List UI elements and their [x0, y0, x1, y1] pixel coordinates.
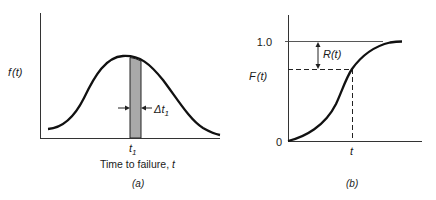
r-of-t-bracket-arrow [316, 42, 321, 69]
y-axis-label-f-of-t: f(t) [8, 66, 23, 78]
y-axis-label-F-of-t: F(t) [249, 70, 267, 82]
panel-a: Δt1 f(t) t1 Time to failure, t (a) [8, 13, 220, 189]
y-tick-0: 0 [276, 136, 282, 148]
x-axis-label-time-to-failure: Time to failure, t [100, 158, 176, 170]
t1-tick-label: t1 [129, 142, 137, 157]
r-of-t-label: R(t) [323, 48, 342, 60]
caption-b: (b) [346, 178, 358, 189]
shaded-interval-band [130, 58, 141, 139]
x-tick-t: t [350, 145, 354, 157]
caption-a: (a) [132, 178, 144, 189]
cdf-curve [288, 42, 402, 142]
panel-b: R(t) 1.0 0 t F(t) (b) [249, 15, 422, 189]
y-tick-1-0: 1.0 [257, 36, 272, 48]
figure: Δt1 f(t) t1 Time to failure, t (a) R(t) … [0, 0, 436, 200]
delta-t1-label: Δt1 [153, 103, 169, 118]
